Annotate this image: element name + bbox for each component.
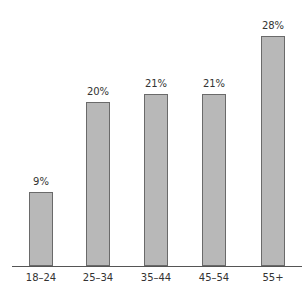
- bar-3: [202, 94, 226, 266]
- x-tick-label: 45–54: [189, 272, 239, 283]
- x-tick-label: 25–34: [73, 272, 123, 283]
- value-label: 21%: [131, 78, 181, 89]
- value-label: 21%: [189, 78, 239, 89]
- x-tick-label: 35–44: [131, 272, 181, 283]
- x-tick-label: 55+: [248, 272, 298, 283]
- value-label: 20%: [73, 86, 123, 97]
- x-tick-label: 18–24: [16, 272, 66, 283]
- bar-0: [29, 192, 53, 266]
- x-axis-line: [12, 266, 302, 267]
- value-label: 28%: [248, 20, 298, 31]
- bar-2: [144, 94, 168, 266]
- bar-chart: 9%18–2420%25–3421%35–4421%45–5428%55+: [0, 0, 306, 301]
- bar-1: [86, 102, 110, 266]
- value-label: 9%: [16, 176, 66, 187]
- bar-4: [261, 36, 285, 266]
